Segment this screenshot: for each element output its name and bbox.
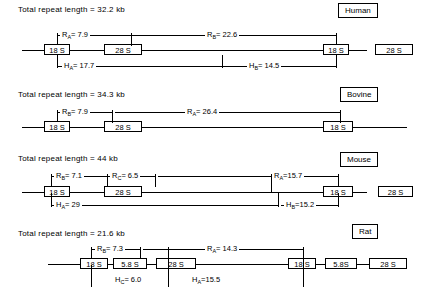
gene-box-28s-1-human: 28 S [104, 44, 142, 55]
measure-ra-sub-bovine: A [192, 111, 196, 117]
species-tag-mouse: Mouse [340, 152, 378, 167]
measure-rb-value-human: = 22.6 [216, 30, 237, 39]
measure-ra-sub-human: A [67, 34, 71, 40]
gene-box-58s-2-rat: 5.8S [325, 258, 357, 269]
measure-ha-human: HA= 17.7 [62, 62, 96, 70]
span-ra-bovine [115, 112, 340, 113]
tick-hb-right-mouse [338, 193, 339, 207]
tick-hb-right-human [336, 55, 337, 68]
measure-rb-value-bovine: = 7.9 [71, 107, 88, 116]
measure-rb-sub-human: B [212, 34, 216, 40]
gene-box-18s-1-human: 18 S [44, 44, 70, 55]
measure-hc-rat: HC= 6.0 [113, 276, 143, 284]
measure-hb-mouse: HB=15.2 [284, 201, 316, 209]
measure-ha-rat: HA=15.5 [190, 276, 222, 284]
gene-box-28s-1-bovine: 28 S [104, 121, 142, 132]
measure-ra-value-human: = 7.9 [71, 30, 88, 39]
measure-ha-sub-mouse: A [61, 204, 65, 210]
gene-box-18s-2-human: 18 S [323, 44, 349, 55]
backbone-line-human [22, 50, 367, 51]
measure-rc-mouse: RC= 6.5 [110, 172, 140, 180]
repeat-length-title-bovine: Total repeat length = 34.3 kb [18, 90, 125, 99]
span-ha-mouse [51, 205, 278, 206]
tick-hc-right-rat [168, 265, 169, 287]
measure-rb-sub-bovine: B [67, 111, 71, 117]
gene-box-18s-2-bovine: 18 S [323, 121, 353, 132]
measure-rb-sub-rat: B [102, 248, 106, 254]
panel-bovine: Total repeat length = 34.3 kb Bovine 18 … [0, 85, 427, 147]
tick-rb-right-rat [140, 247, 141, 259]
measure-ra-human: RA= 7.9 [60, 31, 90, 39]
repeat-length-title-rat: Total repeat length = 21.6 kb [18, 229, 125, 238]
measure-rb-rat: RB= 7.3 [95, 245, 125, 253]
measure-hc-value-rat: = 6.0 [124, 275, 141, 284]
measure-hb-sub-human: B [254, 65, 258, 71]
panel-rat: Total repeat length = 21.6 kb Rat 18 S 5… [0, 222, 427, 302]
gene-box-18s-1-bovine: 18 S [44, 121, 70, 132]
gene-box-28s-1-mouse: 28 S [104, 186, 142, 197]
measure-rb-bovine: RB= 7.9 [60, 108, 90, 116]
span-ra-mouse [158, 176, 338, 177]
measure-hb-sub-mouse: B [291, 204, 295, 210]
gene-box-18s-1-mouse: 18 S [44, 186, 70, 197]
measure-ra-mouse: RA=15.7 [272, 172, 304, 180]
measure-ra-sub-rat: A [212, 248, 216, 254]
tick-rb-right-bovine [112, 110, 113, 123]
gene-box-58s-1-rat: 5.8 S [113, 258, 147, 269]
measure-ra-bovine: RA= 26.4 [185, 108, 219, 116]
measure-ra-rat: RA= 14.3 [205, 245, 239, 253]
tick-hc-left-rat [91, 265, 92, 287]
measure-rb-value-mouse: = 7.1 [65, 171, 82, 180]
gene-box-28s-2-rat: 28 S [369, 258, 407, 269]
measure-hb-human: HB= 14.5 [247, 62, 281, 70]
measure-hb-value-human: = 14.5 [258, 61, 279, 70]
measure-ha-value-human: = 17.7 [73, 61, 94, 70]
tick-ha-right-rat [303, 265, 304, 287]
measure-ra-value-rat: = 14.3 [216, 244, 237, 253]
measure-hc-sub-rat: C [120, 279, 124, 285]
species-tag-rat: Rat [352, 224, 378, 239]
measure-rb-mouse: RB= 7.1 [54, 172, 84, 180]
gene-box-18s-1-rat: 18 S [80, 258, 108, 269]
measure-ha-sub-rat: A [197, 279, 201, 285]
measure-ra-sub-mouse: A [279, 175, 283, 181]
repeat-length-title-human: Total repeat length = 32.2 kb [18, 5, 125, 14]
measure-ha-value-mouse: = 29 [65, 200, 80, 209]
measure-ha-sub-human: A [69, 65, 73, 71]
measure-hb-value-mouse: =15.2 [295, 200, 314, 209]
measure-ha-value-rat: =15.5 [201, 275, 220, 284]
measure-ra-value-bovine: = 26.4 [196, 107, 217, 116]
gene-box-28s-1-rat: 28 S [156, 258, 196, 269]
measure-rc-value-mouse: = 6.5 [121, 171, 138, 180]
measure-ra-value-mouse: =15.7 [283, 171, 302, 180]
gene-box-28s-2-human: 28 S [375, 44, 413, 55]
species-tag-bovine: Bovine [340, 87, 378, 102]
tick-rb-right-human [336, 33, 337, 45]
measure-rb-sub-mouse: B [61, 175, 65, 181]
gene-box-18s-2-rat: 18 S [288, 258, 316, 269]
tick-ra-right-rat [303, 247, 304, 265]
tick-ra-right-mouse [338, 174, 339, 187]
species-tag-human: Human [338, 3, 378, 18]
backbone-line-mouse [22, 192, 367, 193]
tick-h-mid-mouse [278, 193, 279, 207]
tick-rc-right-mouse [155, 174, 156, 187]
panel-mouse: Total repeat length = 44 kb Mouse 18 S 2… [0, 150, 427, 222]
panel-human: Total repeat length = 32.2 kb Human 18 S… [0, 0, 427, 85]
measure-rb-human: RB= 22.6 [205, 31, 239, 39]
repeat-length-title-mouse: Total repeat length = 44 kb [18, 154, 118, 163]
measure-ha-mouse: HA= 29 [54, 201, 82, 209]
tick-ra-right-bovine [340, 110, 341, 123]
measure-rb-value-rat: = 7.3 [106, 244, 123, 253]
gene-box-28s-2-mouse: 28 S [378, 186, 413, 197]
measure-rc-sub-mouse: C [117, 175, 121, 181]
